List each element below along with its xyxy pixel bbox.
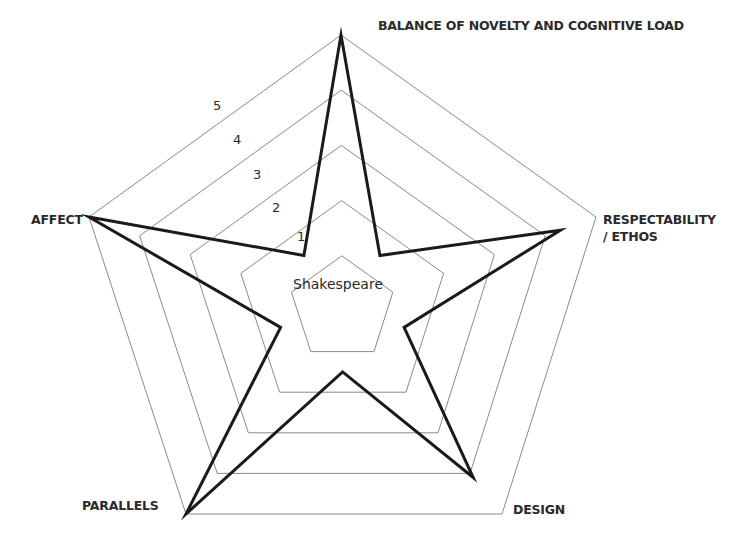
ring-label-1: 1: [297, 229, 305, 244]
radar-chart: [0, 0, 753, 542]
axis-label-design: DESIGN: [513, 501, 565, 518]
axis-label-respectability-line2: / ETHOS: [603, 228, 716, 245]
series-center-label: Shakespeare: [293, 276, 383, 292]
axis-label-respectability-line1: RESPECTABILITY: [603, 211, 716, 228]
series-shakespeare-shape: [89, 35, 560, 514]
ring-label-5: 5: [213, 98, 221, 113]
grid-ring-2: [241, 201, 444, 393]
radar-grid: [89, 35, 596, 514]
ring-label-2: 2: [272, 200, 280, 215]
ring-label-4: 4: [233, 132, 241, 147]
axis-label-respectability: RESPECTABILITY / ETHOS: [603, 211, 716, 245]
grid-ring-1: [291, 256, 392, 352]
grid-ring-5: [89, 35, 596, 514]
axis-label-parallels: PARALLELS: [82, 497, 159, 514]
axis-label-affect: AFFECT: [31, 211, 83, 228]
axis-label-balance: BALANCE OF NOVELTY AND COGNITIVE LOAD: [378, 17, 684, 34]
ring-label-3: 3: [253, 167, 261, 182]
